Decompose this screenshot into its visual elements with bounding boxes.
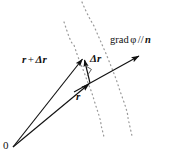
label-r-plus-delta-r: r+Δr	[22, 54, 47, 65]
label-r-plus-delta-r-plus: +	[28, 53, 34, 65]
label-r-text: r	[76, 90, 80, 102]
diagram-canvas	[0, 0, 171, 161]
label-origin: 0	[3, 140, 9, 151]
label-grad-word: grad	[110, 34, 129, 45]
label-grad-normal-n: n	[145, 34, 151, 45]
label-r-plus-delta-r-dr: r	[42, 53, 46, 65]
label-grad-parallel: //	[138, 34, 144, 45]
label-delta-r-delta: Δ	[90, 52, 97, 64]
label-r-plus-delta-r-r: r	[22, 53, 26, 65]
gradient-vector-diagram: r+Δr Δr r gradφ//n 0	[0, 0, 171, 161]
label-r: r	[76, 91, 80, 102]
label-grad-phi-parallel-n: gradφ//n	[110, 35, 151, 46]
label-grad-phi: φ	[130, 34, 136, 45]
label-delta-r-r: r	[97, 52, 101, 64]
label-delta-r: Δr	[90, 53, 101, 64]
